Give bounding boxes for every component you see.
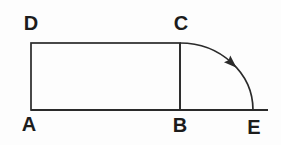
diagram-canvas: D C A B E bbox=[0, 0, 281, 145]
rectangle-abcd bbox=[31, 43, 180, 110]
geometry-figure bbox=[0, 0, 281, 145]
arc-c-to-e bbox=[180, 43, 253, 110]
vertex-label-c: C bbox=[174, 13, 188, 33]
vertex-label-b: B bbox=[173, 115, 187, 135]
vertex-label-d: D bbox=[24, 13, 38, 33]
vertex-label-a: A bbox=[22, 114, 36, 134]
vertex-label-e: E bbox=[247, 117, 260, 137]
